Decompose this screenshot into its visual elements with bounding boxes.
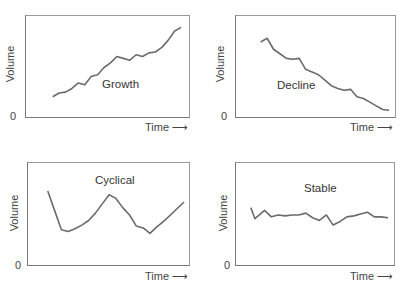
x-axis-text: Time [350, 121, 374, 133]
arrow-right-icon: ⟶ [172, 121, 188, 134]
x-axis-label: Time⟶ [145, 121, 188, 134]
arrow-right-icon: ⟶ [377, 121, 393, 134]
data-line [251, 208, 388, 225]
x-axis-text: Time [350, 270, 374, 282]
data-line [48, 191, 184, 233]
y-zero-label: 0 [15, 259, 21, 271]
arrow-right-icon: ⟶ [172, 270, 188, 283]
y-zero-label: 0 [221, 110, 227, 122]
data-line [261, 38, 389, 110]
decline-line [236, 16, 395, 117]
chart-title: Cyclical [95, 174, 135, 186]
y-zero-label: 0 [10, 110, 16, 122]
chart-title: Decline [277, 79, 315, 91]
stable-line [236, 163, 394, 265]
x-axis-text: Time [145, 121, 169, 133]
plot-area [25, 15, 190, 118]
x-axis-label: Time⟶ [145, 270, 188, 283]
y-axis-label: Volume [4, 44, 16, 84]
chart-title: Growth [102, 78, 139, 90]
arrow-right-icon: ⟶ [377, 270, 393, 283]
plot-area [235, 15, 396, 118]
growth-line [26, 16, 189, 117]
x-axis-label: Time⟶ [350, 121, 393, 134]
y-axis-label: Volume [214, 44, 226, 84]
chart-title: Stable [304, 182, 337, 194]
y-zero-label: 0 [224, 259, 230, 271]
plot-area [235, 162, 395, 266]
y-axis-label: Volume [8, 193, 20, 233]
y-axis-label: Volume [217, 193, 229, 233]
x-axis-label: Time⟶ [350, 270, 393, 283]
x-axis-text: Time [145, 270, 169, 282]
